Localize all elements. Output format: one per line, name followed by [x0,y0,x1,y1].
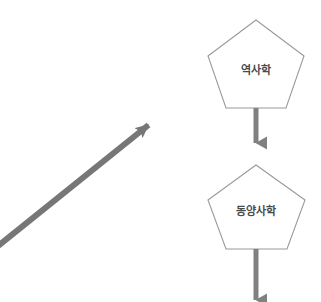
node-east-asian-history[interactable] [208,165,305,249]
pentagon-shape-historiography [208,20,304,108]
pentagon-shape-east-asian-history [208,165,305,249]
node-historiography[interactable] [208,20,304,108]
diagram-canvas: 역사학 동양사학 [0,0,321,302]
diagram-vector-layer [0,0,321,302]
arrow-diagonal-ascending [0,125,149,254]
